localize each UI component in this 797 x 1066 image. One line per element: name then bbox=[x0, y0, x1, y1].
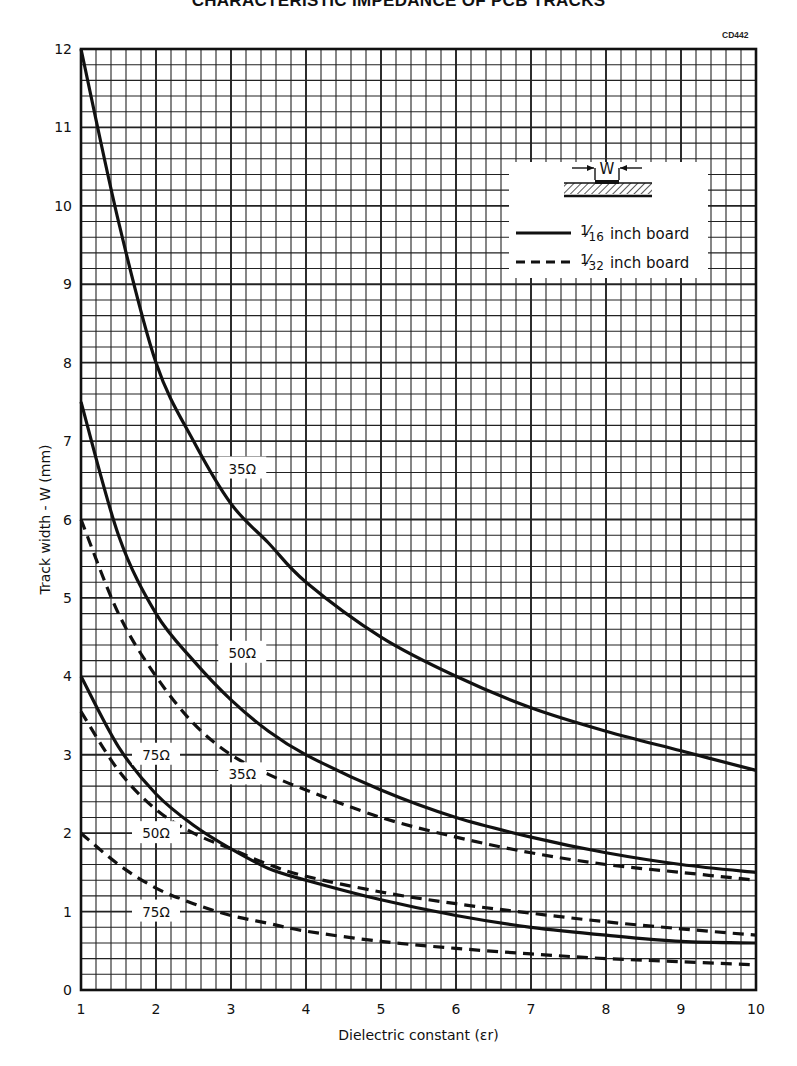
x-tick-label: 2 bbox=[152, 1001, 161, 1017]
x-tick-label: 1 bbox=[77, 1001, 86, 1017]
curve-label: 35Ω bbox=[229, 766, 257, 782]
y-tick-label: 10 bbox=[54, 198, 72, 214]
curve-35ohm-1-32 bbox=[81, 520, 756, 881]
x-tick-label: 10 bbox=[747, 1001, 765, 1017]
x-tick-label: 4 bbox=[302, 1001, 311, 1017]
y-tick-label: 8 bbox=[63, 355, 72, 371]
curve-label: 75Ω bbox=[142, 747, 170, 763]
y-tick-label: 3 bbox=[63, 747, 72, 763]
y-tick-label: 4 bbox=[63, 668, 72, 684]
y-tick-label: 9 bbox=[63, 276, 72, 292]
chart-area: 35Ω50Ω75Ω35Ω50Ω75Ω W1⁄16inch board1⁄32in… bbox=[0, 0, 797, 1066]
x-axis-label: Dielectric constant (εr) bbox=[338, 1027, 498, 1043]
curve-label: 50Ω bbox=[229, 645, 257, 661]
width-label: W bbox=[600, 160, 615, 178]
x-tick-label: 8 bbox=[602, 1001, 611, 1017]
y-tick-label: 5 bbox=[63, 590, 72, 606]
x-tick-label: 7 bbox=[527, 1001, 536, 1017]
curve-label: 50Ω bbox=[142, 825, 170, 841]
x-tick-label: 3 bbox=[227, 1001, 236, 1017]
curve-75ohm-1-16 bbox=[81, 676, 756, 943]
y-tick-label: 6 bbox=[63, 512, 72, 528]
y-tick-label: 12 bbox=[54, 41, 72, 57]
y-tick-label: 0 bbox=[63, 982, 72, 998]
y-tick-label: 11 bbox=[54, 119, 72, 135]
y-tick-label: 2 bbox=[63, 825, 72, 841]
x-tick-label: 6 bbox=[452, 1001, 461, 1017]
x-tick-label: 9 bbox=[677, 1001, 686, 1017]
legend: W1⁄16inch board1⁄32inch board bbox=[509, 160, 708, 278]
y-tick-label: 1 bbox=[63, 904, 72, 920]
curve-label: 75Ω bbox=[142, 904, 170, 920]
x-tick-label: 5 bbox=[377, 1001, 386, 1017]
y-axis-label: Track width - W (mm) bbox=[37, 444, 53, 595]
curve-label: 35Ω bbox=[229, 461, 257, 477]
y-tick-label: 7 bbox=[63, 433, 72, 449]
